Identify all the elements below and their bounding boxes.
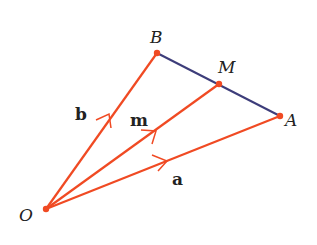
point-A <box>277 113 283 119</box>
vector-diagram: B M A O b m a <box>0 0 317 245</box>
vector-m-line <box>46 84 219 209</box>
point-B <box>154 50 160 56</box>
label-vector-m: m <box>130 110 148 130</box>
point-M <box>216 81 222 87</box>
label-M: M <box>217 57 236 77</box>
vector-a-line <box>46 116 280 209</box>
point-O <box>43 206 49 212</box>
label-A: A <box>283 110 297 130</box>
label-vector-a: a <box>172 169 183 189</box>
label-vector-b: b <box>75 104 87 124</box>
label-O: O <box>19 205 33 225</box>
label-B: B <box>149 27 163 47</box>
vector-b-line <box>46 53 157 209</box>
